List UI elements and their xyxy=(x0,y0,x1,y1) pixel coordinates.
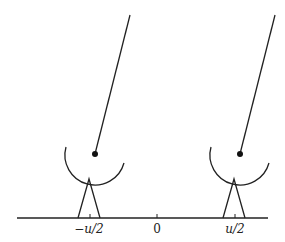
axis-label-left: −u/2 xyxy=(74,222,103,236)
diagram-canvas: −u/2 0 u/2 xyxy=(0,0,285,242)
right-pendulum-bob xyxy=(237,151,243,157)
axis-label-center: 0 xyxy=(153,222,161,236)
left-pendulum-bob xyxy=(92,151,98,157)
right-pendulum-apparatus xyxy=(210,15,275,218)
left-pendulum-apparatus xyxy=(65,15,130,218)
right-pendulum-string xyxy=(240,15,275,154)
axis-label-right: u/2 xyxy=(225,222,244,236)
left-pendulum-string xyxy=(95,15,130,154)
